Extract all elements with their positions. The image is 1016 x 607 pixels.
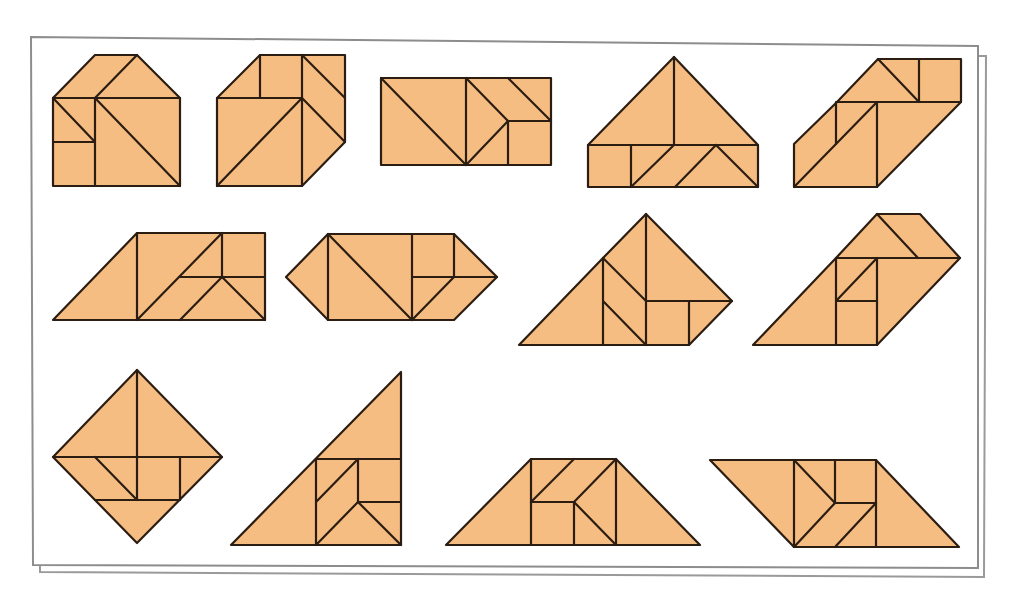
figure-hexagon [286, 234, 497, 320]
tangram-sheet [0, 0, 1016, 607]
figure-rectangle [381, 78, 551, 165]
